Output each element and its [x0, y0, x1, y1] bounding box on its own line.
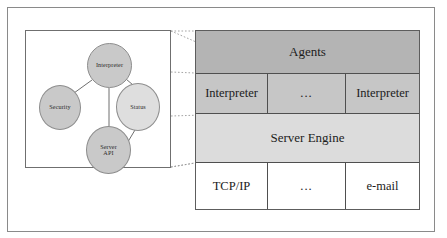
cell-transport-email: e-mail: [346, 163, 419, 209]
cell-interpreter-left: Interpreter: [196, 74, 268, 113]
cell-interpreter-ellipsis: ...: [268, 74, 346, 113]
cell-transport-ellipsis: ...: [268, 163, 346, 209]
cell-interpreter-right: Interpreter: [346, 74, 419, 113]
node-server-api-label-line2: API: [100, 150, 117, 157]
layer-server-engine-label: Server Engine: [270, 130, 344, 146]
architecture-figure: Interpreter Security Status Server API A…: [0, 0, 447, 238]
node-server-api: Server API: [86, 126, 131, 174]
node-interpreter: Interpreter: [87, 43, 132, 88]
layered-architecture-stack: Agents Interpreter ... Interpreter Serve…: [195, 30, 420, 210]
node-security: Security: [39, 85, 81, 130]
layer-agents: Agents: [196, 31, 419, 74]
layer-interpreters: Interpreter ... Interpreter: [196, 74, 419, 114]
cell-transport-tcpip: TCP/IP: [196, 163, 268, 209]
layer-server-engine: Server Engine: [196, 114, 419, 163]
node-status-label: Status: [130, 104, 146, 111]
layer-agents-label: Agents: [289, 44, 326, 60]
layer-transport: TCP/IP ... e-mail: [196, 163, 419, 209]
node-security-label: Security: [49, 104, 70, 111]
interpreter-detail-box: Interpreter Security Status Server API: [25, 30, 171, 168]
node-interpreter-label: Interpreter: [96, 62, 123, 69]
edge-interpreter-security: [74, 80, 92, 93]
node-server-api-label: Server API: [100, 144, 117, 157]
node-status: Status: [116, 83, 160, 131]
